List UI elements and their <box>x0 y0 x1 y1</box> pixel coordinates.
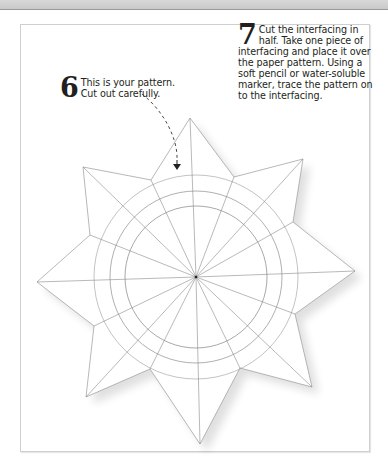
step-6-text: This is your pattern. Cut out carefully. <box>81 77 175 99</box>
step-7-text: Cut the interfacing in half. Take one pi… <box>238 24 372 101</box>
step-7-number: 7 <box>238 25 257 45</box>
step-6-instruction: 6 This is your pattern. Cut out carefull… <box>60 77 180 99</box>
step-6-number: 6 <box>60 78 79 98</box>
center-dot <box>195 276 198 279</box>
step-7-instruction: 7 Cut the interfacing in half. Take one … <box>238 24 374 101</box>
